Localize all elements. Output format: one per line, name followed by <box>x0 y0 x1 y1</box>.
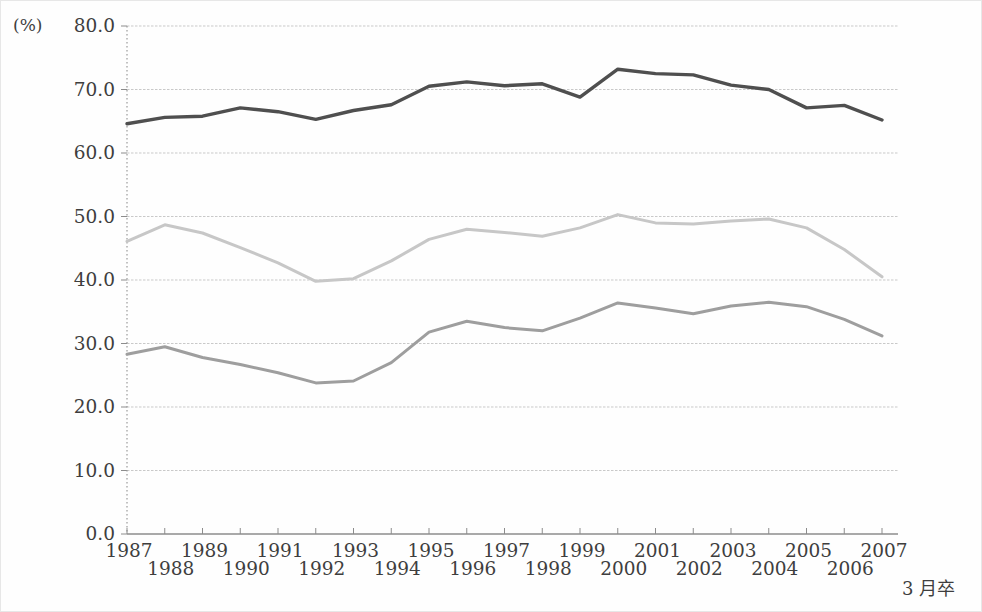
x-axis-label: 2000 <box>596 560 652 578</box>
y-axis-label: 40.0 <box>41 271 115 289</box>
x-axis-label: 1990 <box>218 560 274 578</box>
x-axis-note-label: 3 月卒 <box>902 574 955 600</box>
data-lower-line <box>127 302 882 383</box>
x-axis-label: 2006 <box>822 560 878 578</box>
y-axis-unit-label: (%) <box>13 16 42 34</box>
y-axis-label: 60.0 <box>41 144 115 162</box>
data-upper-line <box>127 69 882 124</box>
y-axis-label: 20.0 <box>41 398 115 416</box>
y-axis-label: 10.0 <box>41 462 115 480</box>
data-middle-line <box>127 215 882 282</box>
scanned-line-chart: (%) 0.010.020.030.040.050.060.070.080.01… <box>0 0 982 612</box>
y-axis-label: 70.0 <box>41 81 115 99</box>
x-axis-label: 2002 <box>671 560 727 578</box>
x-axis-label: 1988 <box>143 560 199 578</box>
chart-plot-area <box>1 1 982 612</box>
y-axis-label: 50.0 <box>41 208 115 226</box>
x-axis-label: 2004 <box>747 560 803 578</box>
x-axis-label: 1998 <box>520 560 576 578</box>
y-axis-label: 0.0 <box>41 525 115 543</box>
x-axis-label: 1994 <box>369 560 425 578</box>
x-axis-label: 2007 <box>856 542 912 560</box>
x-axis-label: 1992 <box>294 560 350 578</box>
y-axis-label: 80.0 <box>41 17 115 35</box>
x-axis-label: 1996 <box>445 560 501 578</box>
y-axis-label: 30.0 <box>41 335 115 353</box>
